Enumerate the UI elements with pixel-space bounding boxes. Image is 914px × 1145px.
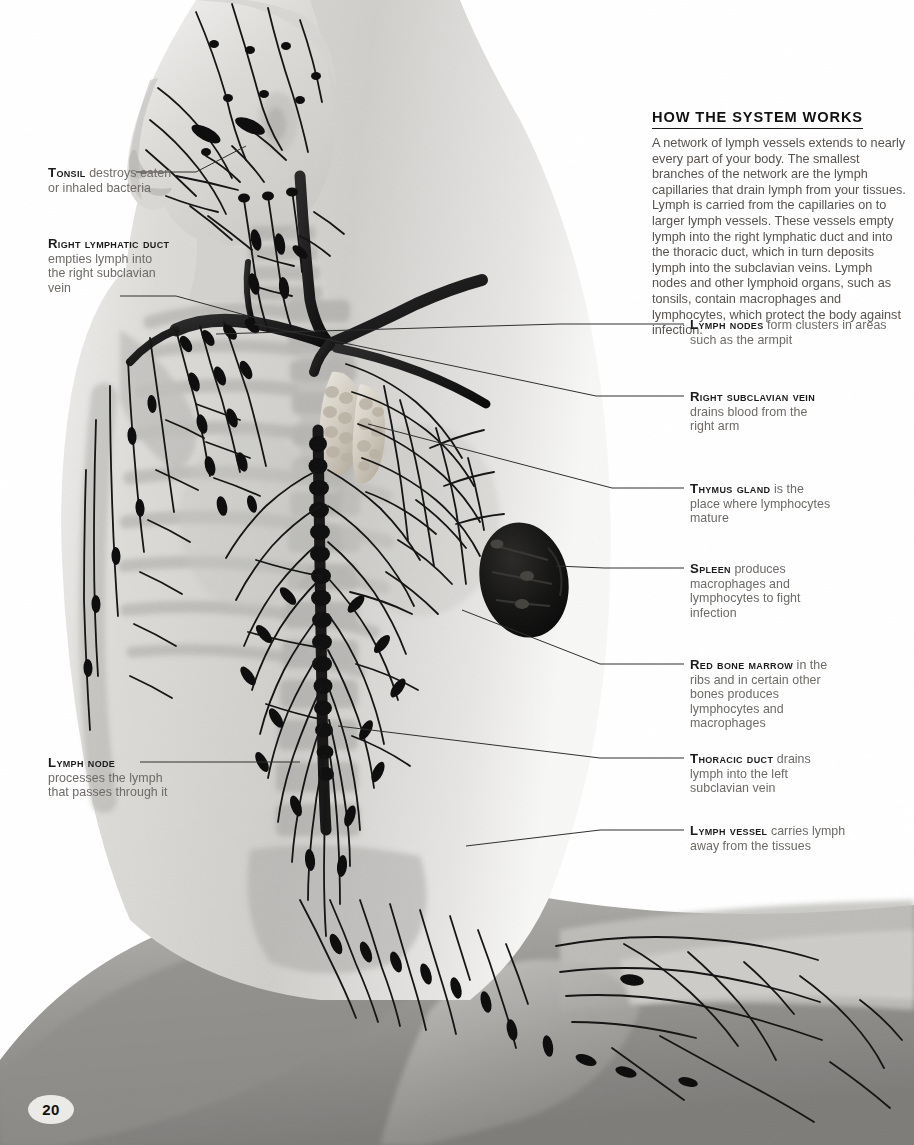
callout-tonsil: Tonsil destroys eaten or inhaled bacteri… [48,166,178,195]
callout-right-subclavian-vein: Right subclavian vein drains blood from … [690,390,822,434]
anatomy-page: HOW THE SYSTEM WORKS A network of lymph … [0,0,914,1145]
callout-term: Spleen [690,561,731,576]
callout-term: Right subclavian vein [690,389,815,404]
callout-thymus-gland: Thymus gland is the place where lymphocy… [690,482,832,526]
callout-description: processes the lymph that passes through … [48,771,168,800]
callout-right-lymphatic-duct: Right lymphatic duct empties lymph into … [48,237,170,295]
callout-thoracic-duct: Thoracic duct drains lymph into the left… [690,752,842,796]
panel-heading: HOW THE SYSTEM WORKS [652,109,863,129]
callout-term: Thymus gland [690,481,770,496]
callout-term: Lymph node [48,755,115,770]
callout-lymph-nodes: Lymph nodes form clusters in areas such … [690,318,906,347]
callout-spleen: Spleen produces macrophages and lymphocy… [690,562,818,620]
callout-description: drains blood from the right arm [690,405,807,434]
callout-lymph-vessel: Lymph vessel carries lymph away from the… [690,824,862,853]
callout-red-bone-marrow: Red bone marrow in the ribs and in certa… [690,658,842,731]
callout-term: Tonsil [48,165,86,180]
callout-term: Right lymphatic duct [48,236,169,251]
callout-term: Red bone marrow [690,657,793,672]
how-the-system-works-panel: HOW THE SYSTEM WORKS A network of lymph … [652,108,910,339]
callout-lymph-node: Lymph node processes the lymph that pass… [48,756,170,800]
callout-description: empties lymph into the right subclavian … [48,252,156,295]
panel-body: A network of lymph vessels extends to ne… [652,136,910,339]
page-number: 20 [28,1095,74,1124]
callout-term: Thoracic duct [690,751,773,766]
callout-term: Lymph nodes [690,317,764,332]
callout-term: Lymph vessel [690,823,767,838]
